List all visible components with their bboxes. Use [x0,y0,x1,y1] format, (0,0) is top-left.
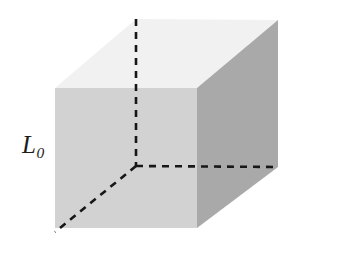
edge-length-label: L0 [22,132,44,160]
edge-length-subscript: 0 [36,144,44,161]
cube-illustration [0,0,348,255]
cube-figure: L0 [0,0,348,255]
cube-front-face [55,88,197,228]
edge-length-symbol: L [22,131,36,158]
